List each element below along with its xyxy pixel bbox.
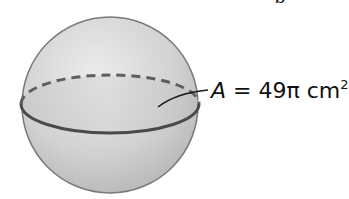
- cropped-glyph: p: [274, 0, 286, 3]
- area-variable: A: [211, 78, 226, 103]
- area-exponent: 2: [340, 77, 348, 92]
- equals-sign: =: [226, 78, 258, 103]
- area-label: A = 49π cm2: [211, 78, 349, 103]
- cropped-top-text: p: [0, 0, 347, 3]
- area-value: 49π cm: [258, 78, 340, 103]
